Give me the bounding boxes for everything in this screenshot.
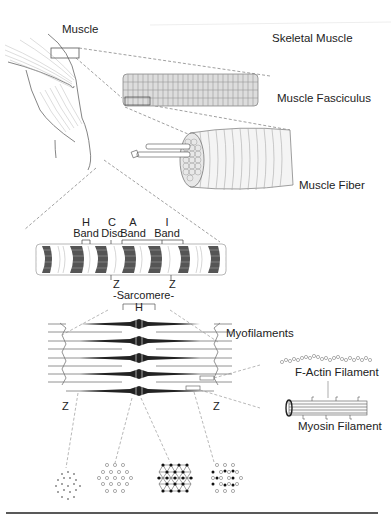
fasciculus-illustration (123, 74, 258, 106)
label-a-band-word: Band (119, 227, 147, 239)
label-h-zone: H (133, 301, 145, 313)
label-myofilaments: Myofilaments (226, 327, 294, 339)
cross-section-myosin (97, 463, 132, 492)
label-z-right-sarcomere: Z (213, 400, 220, 412)
cross-section-m-line (157, 463, 193, 492)
muscle-zoom-box (51, 48, 79, 58)
label-h-band-word: Band (72, 227, 100, 239)
cross-section-actin (55, 471, 81, 500)
label-muscle-fasciculus: Muscle Fasciculus (277, 92, 371, 104)
arm-muscle-illustration (5, 34, 91, 170)
myosin-filament-illustration (286, 397, 367, 419)
f-actin-illustration (280, 354, 371, 363)
label-i-band-word: Band (153, 227, 181, 239)
sarcomere-illustration (48, 304, 232, 397)
label-muscle: Muscle (62, 23, 98, 35)
myofibril-illustration (36, 244, 226, 275)
label-f-actin-filament: F-Actin Filament (295, 366, 379, 378)
label-sarcomere: -Sarcomere- (113, 289, 174, 301)
label-skeletal-muscle: Skeletal Muscle (272, 32, 353, 44)
label-myosin-filament: Myosin Filament (298, 420, 382, 432)
label-muscle-fiber: Muscle Fiber (299, 179, 365, 191)
cross-section-overlap (211, 463, 242, 492)
label-z-left-sarcomere: Z (62, 400, 69, 412)
diagram-canvas (0, 0, 391, 519)
muscle-fiber-illustration (131, 128, 293, 190)
